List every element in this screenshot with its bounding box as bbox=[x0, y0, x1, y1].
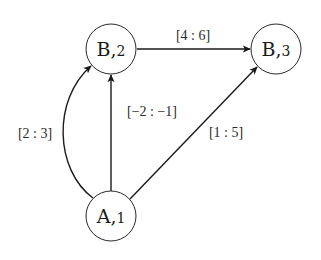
edge-label: [4 : 6] bbox=[176, 28, 210, 43]
node-a1: A,1 bbox=[86, 191, 136, 241]
edge-label: [2 : 3] bbox=[18, 126, 52, 141]
edge-label: [1 : 5] bbox=[209, 125, 243, 140]
edge-a1-to-b3: [1 : 5] bbox=[130, 67, 257, 199]
graph-diagram: [4 : 6] [2 : 3] [−2 : −1] [1 : 5] B,2 B,… bbox=[0, 0, 321, 260]
edge-label: [−2 : −1] bbox=[127, 104, 177, 119]
edge-a1-to-b2-straight: [−2 : −1] bbox=[111, 75, 177, 191]
edge-curve bbox=[63, 66, 93, 198]
node-b3: B,3 bbox=[251, 24, 301, 74]
edge-a1-to-b2-curved: [2 : 3] bbox=[18, 66, 93, 198]
edge-b2-to-b3: [4 : 6] bbox=[137, 28, 250, 49]
node-b2: B,2 bbox=[86, 24, 136, 74]
